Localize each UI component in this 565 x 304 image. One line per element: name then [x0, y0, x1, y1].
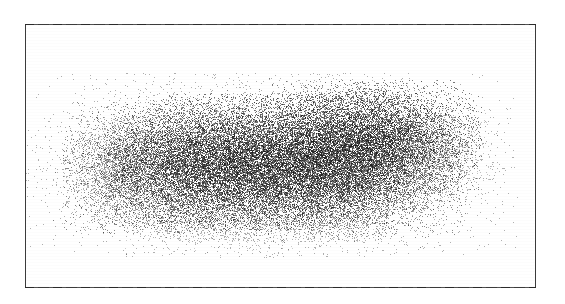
scatter-point-cloud [26, 25, 535, 287]
figure-root [0, 0, 565, 304]
plot-frame [25, 24, 536, 288]
